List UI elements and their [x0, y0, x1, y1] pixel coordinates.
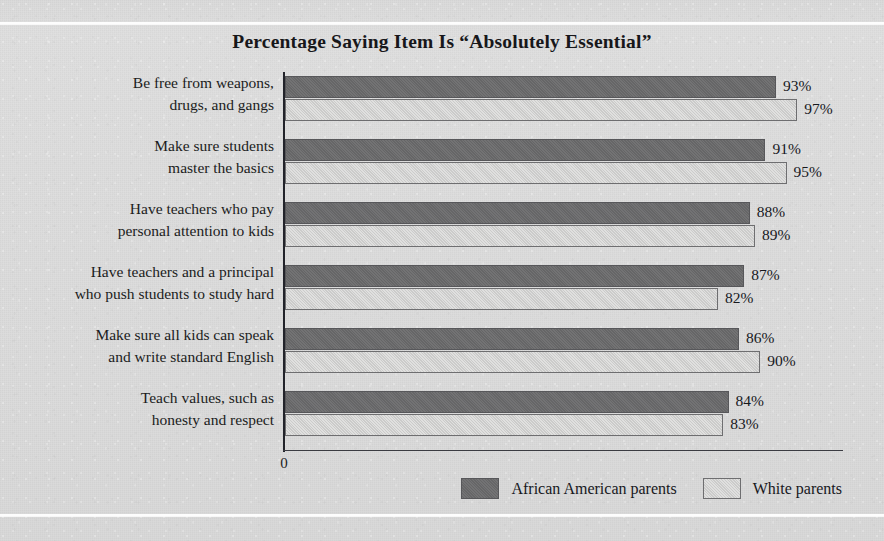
category-label: Make sure all kids can speakand write st… [0, 324, 274, 368]
bar-value-label: 88% [757, 203, 785, 221]
legend-swatch-icon-light [703, 478, 741, 499]
category-label: Make sure studentsmaster the basics [0, 135, 274, 179]
bar-dark [285, 76, 776, 98]
legend-swatch-icon-dark [461, 478, 499, 499]
bar-value-label: 84% [736, 392, 764, 410]
category-label-line: Have teachers who pay [0, 198, 274, 220]
bar-dark [285, 139, 765, 161]
bar-light [285, 414, 723, 436]
category-label-line: Teach values, such as [0, 387, 274, 409]
bar-dark [285, 265, 744, 287]
bar-group: Teach values, such ashonesty and respect… [0, 391, 884, 437]
plot-area: 0 Be free from weapons,drugs, and gangs9… [0, 70, 884, 455]
category-label-line: Make sure students [0, 135, 274, 157]
bar-value-label: 87% [751, 266, 779, 284]
axis-zero-label: 0 [271, 455, 297, 472]
bar-light [285, 288, 718, 310]
bar-light [285, 225, 755, 247]
category-label-line: personal attention to kids [0, 220, 274, 242]
category-label: Teach values, such ashonesty and respect [0, 387, 274, 431]
chart-page: Percentage Saying Item Is “Absolutely Es… [0, 0, 884, 541]
bar-group: Make sure all kids can speakand write st… [0, 328, 884, 374]
bottom-divider-rule [0, 514, 884, 516]
bar-dark [285, 328, 739, 350]
legend-item-african-american-parents: African American parents [461, 478, 676, 499]
bar-group: Be free from weapons,drugs, and gangs93%… [0, 76, 884, 122]
category-label-line: Be free from weapons, [0, 72, 274, 94]
bar-value-label: 83% [730, 415, 758, 433]
legend-label: White parents [753, 480, 842, 498]
bar-light [285, 351, 760, 373]
bar-value-label: 82% [725, 289, 753, 307]
bar-value-label: 91% [772, 140, 800, 158]
bar-value-label: 90% [767, 352, 795, 370]
bar-value-label: 86% [746, 329, 774, 347]
chart-title: Percentage Saying Item Is “Absolutely Es… [0, 31, 884, 53]
x-axis-baseline [283, 450, 843, 451]
bar-value-label: 93% [783, 77, 811, 95]
category-label-line: master the basics [0, 157, 274, 179]
category-label: Have teachers and a principalwho push st… [0, 261, 274, 305]
category-label-line: Have teachers and a principal [0, 261, 274, 283]
bar-value-label: 97% [804, 100, 832, 118]
bar-group: Have teachers who paypersonal attention … [0, 202, 884, 248]
bar-group: Have teachers and a principalwho push st… [0, 265, 884, 311]
legend-label: African American parents [511, 480, 676, 498]
bar-dark [285, 391, 729, 413]
category-label: Be free from weapons,drugs, and gangs [0, 72, 274, 116]
legend-item-white-parents: White parents [703, 478, 842, 499]
category-label: Have teachers who paypersonal attention … [0, 198, 274, 242]
bar-group: Make sure studentsmaster the basics91%95… [0, 139, 884, 185]
bar-light [285, 162, 787, 184]
category-label-line: Make sure all kids can speak [0, 324, 274, 346]
bar-light [285, 99, 797, 121]
category-label-line: and write standard English [0, 346, 274, 368]
bar-dark [285, 202, 750, 224]
bar-value-label: 95% [794, 163, 822, 181]
category-label-line: who push students to study hard [0, 283, 274, 305]
bar-value-label: 89% [762, 226, 790, 244]
chart-legend: African American parents White parents [0, 478, 884, 499]
top-divider-rule [0, 22, 884, 24]
category-label-line: honesty and respect [0, 409, 274, 431]
category-label-line: drugs, and gangs [0, 94, 274, 116]
